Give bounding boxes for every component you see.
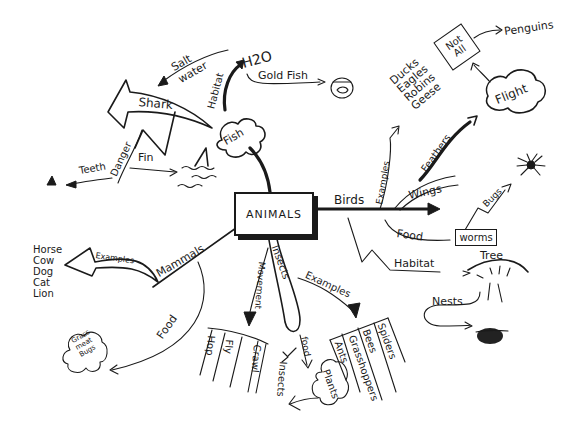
link-plants-insects: [290, 398, 318, 404]
central-node-label: ANIMALS: [246, 208, 302, 221]
mammal-example: Lion: [33, 288, 62, 299]
worms-box: worms: [455, 229, 497, 246]
fin-label: Fin: [138, 152, 154, 163]
fishbowl-icon: [331, 78, 353, 98]
arrowhead-saltwater: [158, 76, 168, 86]
mammals-examples-list: Horse Cow Dog Cat Lion: [33, 244, 62, 299]
link-mammals-food: [112, 262, 204, 370]
gold-fish-label: Gold Fish: [258, 70, 308, 81]
concept-map-canvas: ANIMALS Fish Habitat H2O Salt water Gold…: [0, 0, 576, 440]
tree-label: Tree: [480, 250, 503, 261]
birds-food-label: Food: [396, 228, 424, 243]
worms-label: worms: [459, 232, 492, 243]
central-node-animals: ANIMALS: [234, 192, 314, 236]
movement-fly: Fly: [223, 339, 234, 354]
link-flight-notall: [474, 65, 490, 82]
insects-eat-insects-label: Insects: [275, 361, 288, 397]
birds-habitat-label: Habitat: [394, 258, 434, 269]
link-fish-habitat: [224, 65, 240, 110]
link-fin: [130, 168, 175, 172]
mammal-example: Cat: [33, 277, 62, 288]
shark-fin-icon: [195, 148, 208, 166]
movement-crawl: Crawl: [250, 344, 262, 373]
mammal-example: Horse: [33, 244, 62, 255]
nests-label: Nests: [432, 296, 463, 307]
mammal-example: Cow: [33, 255, 62, 266]
shark-label: Shark: [138, 96, 173, 111]
arrowhead-birds: [428, 203, 440, 215]
movement-hop: Hop: [204, 335, 216, 356]
teeth-icon: [47, 176, 56, 185]
mammal-example: Dog: [33, 266, 62, 277]
birds-node-label: Birds: [334, 194, 364, 206]
